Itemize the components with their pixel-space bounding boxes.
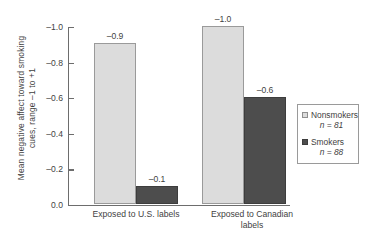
y-tick-label: –0.8: [46, 58, 63, 68]
bar-value-label: –1.0: [215, 14, 232, 24]
legend-swatch-light-square-icon: [302, 112, 308, 118]
y-axis-line: [68, 27, 69, 205]
bar-smokers-canadian: –0.6: [244, 97, 286, 204]
x-category-label-canadian-line-1: Exposed to Canadian: [211, 209, 293, 219]
bar-value-label: –0.1: [149, 174, 166, 184]
y-tick-label: –1.0: [46, 22, 63, 32]
legend-entry-smokers: Smokers n = 88: [302, 137, 354, 157]
y-tick-mark: [69, 134, 74, 135]
x-category-label-us-line-1: Exposed to U.S. labels: [93, 209, 180, 219]
y-tick-mark: [69, 27, 74, 28]
y-tick-mark: [69, 98, 74, 99]
bar-chart-figure: Mean negative affect toward smoking cues…: [0, 0, 373, 249]
legend-n-nonsmokers: n = 81: [302, 120, 354, 130]
legend-swatch-dark-square-icon: [302, 139, 308, 145]
chart-legend: Nonsmokers n = 81 Smokers n = 88: [297, 104, 359, 164]
x-category-label-canadian: Exposed to Canadian labels: [176, 209, 328, 231]
legend-n-smokers-text: n = 88: [320, 147, 344, 157]
y-tick-label: –0.2: [46, 164, 63, 174]
legend-entry-nonsmokers: Nonsmokers n = 81: [302, 110, 354, 130]
x-category-label-canadian-line-2: labels: [241, 220, 263, 230]
plot-area: –1.0 –0.8 –0.6 –0.4 –0.2 0.0 –0.9 –0.1: [68, 27, 290, 205]
y-tick-mark: [69, 63, 74, 64]
bar-value-label: –0.6: [257, 85, 274, 95]
bar-value-label: –0.9: [107, 31, 124, 41]
x-axis-line: [68, 205, 290, 206]
legend-label-nonsmokers: Nonsmokers: [311, 110, 358, 120]
bar-smokers-us: –0.1: [136, 186, 178, 204]
y-axis-title-line-1: Mean negative affect toward smoking: [16, 36, 26, 180]
legend-n-smokers: n = 88: [302, 147, 354, 157]
legend-label-smokers: Smokers: [311, 137, 344, 147]
bar-nonsmokers-canadian: –1.0: [202, 26, 244, 204]
y-axis-title-line-2: cues, range –1 to +1: [26, 36, 37, 180]
bar-nonsmokers-us: –0.9: [94, 43, 136, 203]
y-axis-title: Mean negative affect toward smoking cues…: [14, 18, 38, 198]
legend-n-nonsmokers-text: n = 81: [320, 120, 344, 130]
y-tick-mark: [69, 169, 74, 170]
y-tick-label: –0.6: [46, 93, 63, 103]
y-tick-label: –0.4: [46, 129, 63, 139]
